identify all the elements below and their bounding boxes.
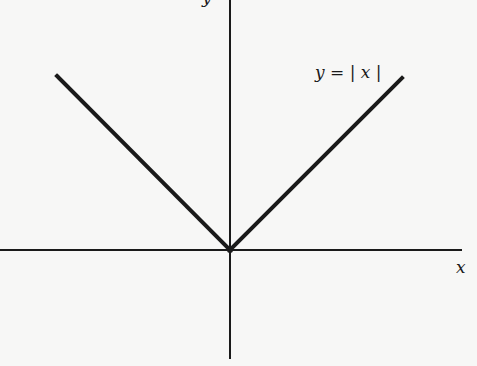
curve-label: y = | x | (315, 64, 382, 81)
left-arm-line (57, 76, 230, 250)
absolute-value-graph (0, 0, 477, 366)
origin-vertex (227, 247, 233, 253)
x-axis-label: x (456, 259, 466, 276)
right-arm-line (230, 78, 402, 250)
y-axis-label: y (202, 0, 212, 6)
